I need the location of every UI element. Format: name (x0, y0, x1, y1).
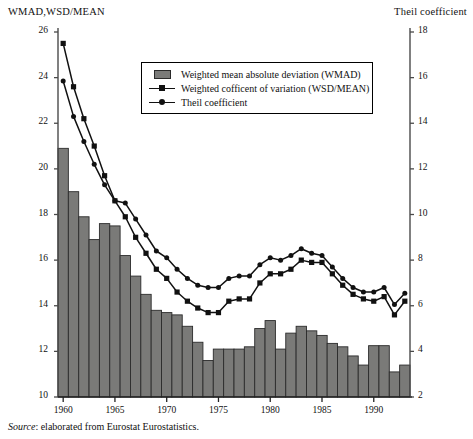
bar-1981 (275, 349, 285, 397)
marker-wsd-mean-1983 (299, 258, 304, 263)
marker-wsd-mean-1987 (340, 283, 345, 288)
marker-wsd-mean-1977 (237, 296, 242, 301)
marker-theil-1988 (351, 285, 356, 290)
marker-wsd-mean-1963 (92, 143, 97, 148)
marker-theil-1986 (330, 264, 335, 269)
line-square-marker-icon (147, 82, 177, 94)
bar-1975 (213, 349, 223, 397)
ytick-label-left-24: 24 (26, 71, 48, 81)
marker-theil-1981 (278, 258, 283, 263)
xtick-label-1990: 1990 (358, 405, 390, 415)
marker-wsd-mean-1986 (330, 271, 335, 276)
line-dot-marker-icon (147, 96, 177, 108)
bar-1979 (255, 329, 265, 397)
marker-theil-1967 (133, 217, 138, 222)
ytick-label-right-10: 10 (418, 208, 428, 218)
marker-theil-1976 (226, 276, 231, 281)
right-axis-title: Theil coefficient (394, 6, 467, 17)
marker-wsd-mean-1976 (226, 299, 231, 304)
marker-theil-1968 (144, 233, 149, 238)
chart-legend: Weighted mean absolute deviation (WMAD) … (141, 62, 373, 114)
ytick-label-right-12: 12 (418, 162, 428, 172)
ytick-label-right-2: 2 (418, 390, 423, 400)
marker-theil-1983 (299, 246, 304, 251)
bar-1978 (244, 347, 254, 397)
marker-theil-1985 (320, 253, 325, 258)
marker-wsd-mean-1974 (206, 310, 211, 315)
chart-figure: WMAD,WSD/MEAN Theil coefficient Weighted… (0, 0, 473, 439)
marker-wsd-mean-1960 (61, 41, 66, 46)
marker-theil-1993 (402, 291, 407, 296)
marker-theil-1969 (154, 249, 159, 254)
bar-1986 (327, 343, 337, 397)
xtick-label-1980: 1980 (254, 405, 286, 415)
bar-1970 (162, 313, 172, 397)
marker-wsd-mean-1961 (71, 84, 76, 89)
ytick-label-right-6: 6 (418, 299, 423, 309)
bar-1993 (400, 365, 410, 397)
bar-1963 (89, 240, 99, 397)
marker-wsd-mean-1979 (257, 280, 262, 285)
marker-theil-1966 (123, 201, 128, 206)
bar-1962 (79, 217, 89, 397)
marker-theil-1970 (164, 255, 169, 260)
marker-wsd-mean-1985 (319, 260, 324, 265)
ytick-label-left-20: 20 (26, 162, 48, 172)
marker-wsd-mean-1975 (216, 310, 221, 315)
source-caption: Source: elaborated from Eurostat Eurosta… (8, 421, 199, 432)
source-text: : elaborated from Eurostat Eurostatistic… (35, 421, 199, 432)
marker-theil-1979 (257, 262, 262, 267)
ytick-label-right-14: 14 (418, 116, 428, 126)
xtick-label-1985: 1985 (306, 405, 338, 415)
marker-wsd-mean-1984 (309, 260, 314, 265)
marker-wsd-mean-1990 (371, 299, 376, 304)
left-axis-title: WMAD,WSD/MEAN (8, 6, 105, 17)
bar-1967 (130, 276, 140, 397)
bar-1990 (369, 346, 379, 397)
bar-1980 (265, 321, 275, 397)
bar-1976 (224, 349, 234, 397)
marker-theil-1975 (216, 285, 221, 290)
bar-1977 (234, 349, 244, 397)
ytick-label-left-16: 16 (26, 253, 48, 263)
xtick-label-1960: 1960 (47, 405, 79, 415)
bar-1961 (68, 192, 78, 397)
bar-1960 (58, 148, 68, 397)
marker-wsd-mean-1971 (174, 289, 179, 294)
bar-1969 (151, 310, 161, 397)
bar-1971 (172, 315, 182, 397)
marker-theil-1989 (361, 290, 366, 295)
bar-1974 (203, 361, 213, 398)
marker-theil-1977 (237, 274, 242, 279)
marker-wsd-mean-1991 (382, 294, 387, 299)
marker-wsd-mean-1978 (247, 296, 252, 301)
bar-1965 (110, 226, 120, 397)
marker-wsd-mean-1964 (102, 173, 107, 178)
ytick-label-left-22: 22 (26, 116, 48, 126)
legend-item-wsd-mean: Weighted cofficent of variation (WSD/MEA… (147, 81, 367, 95)
ytick-label-right-8: 8 (418, 253, 423, 263)
marker-theil-1990 (371, 290, 376, 295)
bar-1984 (306, 331, 316, 397)
bar-swatch-icon (147, 68, 177, 80)
ytick-label-right-4: 4 (418, 344, 423, 354)
marker-theil-1964 (102, 182, 107, 187)
marker-theil-1978 (247, 274, 252, 279)
legend-label-theil: Theil coefficient (177, 97, 247, 108)
marker-theil-1991 (382, 285, 387, 290)
marker-wsd-mean-1969 (154, 267, 159, 272)
ytick-label-left-10: 10 (26, 390, 48, 400)
bar-1968 (141, 294, 151, 397)
marker-theil-1965 (112, 198, 117, 203)
legend-item-theil: Theil coefficient (147, 95, 367, 109)
ytick-label-left-12: 12 (26, 344, 48, 354)
ytick-label-left-14: 14 (26, 299, 48, 309)
marker-theil-1982 (288, 253, 293, 258)
bar-1983 (296, 326, 306, 397)
marker-wsd-mean-1968 (143, 251, 148, 256)
marker-wsd-mean-1992 (392, 312, 397, 317)
marker-wsd-mean-1980 (268, 271, 273, 276)
bar-1991 (379, 346, 389, 397)
marker-wsd-mean-1970 (164, 276, 169, 281)
ytick-label-left-18: 18 (26, 208, 48, 218)
